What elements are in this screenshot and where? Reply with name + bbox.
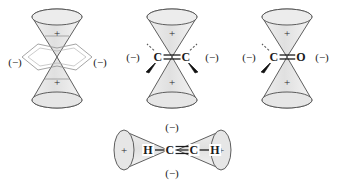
structure-2-right-charge-label: (−) bbox=[205, 52, 219, 63]
structure-4-bottom-charge-label: (−) bbox=[165, 168, 179, 179]
cone-base-ellipse bbox=[262, 9, 312, 25]
structure-4-top-charge-label: (−) bbox=[165, 122, 179, 133]
structure-2-left-charge-label: (−) bbox=[126, 52, 140, 63]
structure-4-carbon-left-label: C bbox=[165, 144, 176, 156]
structure-3-atom-right-label: O bbox=[295, 51, 307, 63]
orbital-diagram-figure: (−) (−) + + (−) (−) C C + + (−) (−) C O … bbox=[0, 0, 344, 186]
structure-3-bottom-plus-label: + bbox=[284, 77, 290, 88]
structure-2-top-plus-label: + bbox=[169, 28, 175, 39]
structure-3-top-plus-label: + bbox=[284, 28, 290, 39]
structure-4-left-plus-label: + bbox=[121, 145, 127, 156]
structure-3-atom-left-label: C bbox=[269, 51, 280, 63]
structure-2-atom-left-label: C bbox=[153, 51, 164, 63]
structure-3-left-charge-label: (−) bbox=[242, 52, 256, 63]
cone-base-ellipse bbox=[32, 9, 82, 25]
structure-1-bottom-plus-label: + bbox=[54, 77, 60, 88]
structure-3-right-charge-label: (−) bbox=[315, 52, 329, 63]
structure-1-right-charge-label: (−) bbox=[93, 57, 107, 68]
structure-1-group bbox=[22, 9, 92, 108]
cone-base-ellipse bbox=[147, 9, 197, 25]
structure-2-atom-right-label: C bbox=[181, 51, 192, 63]
structure-1-top-plus-label: + bbox=[54, 28, 60, 39]
structure-1-left-charge-label: (−) bbox=[8, 57, 22, 68]
cone-base-ellipse bbox=[262, 92, 312, 108]
cone-base-ellipse bbox=[32, 92, 82, 108]
structure-4-hydrogen-left-label: H bbox=[142, 144, 154, 156]
structure-2-bottom-plus-label: + bbox=[169, 77, 175, 88]
structure-4-hydrogen-right-label: H bbox=[209, 144, 221, 156]
cone-base-ellipse bbox=[147, 92, 197, 108]
structure-4-carbon-right-label: C bbox=[189, 144, 200, 156]
